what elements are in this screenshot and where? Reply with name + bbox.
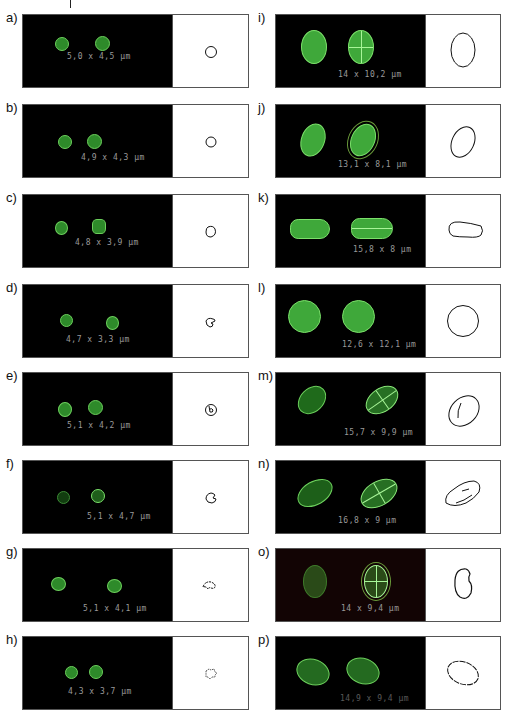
panel-label: a)	[6, 10, 18, 25]
panel-label: l)	[258, 280, 265, 295]
cell-image-measured	[92, 219, 106, 234]
cell-image	[293, 654, 334, 690]
micrograph: 14 x 9,4 µm	[275, 548, 426, 622]
cell-outline-icon	[426, 373, 501, 447]
micrograph: 5,1 x 4,7 µm	[22, 460, 173, 534]
micrograph: 5,0 x 4,5 µm	[22, 14, 173, 88]
cell-image	[60, 314, 73, 327]
panel-i: i) 14 x 10,2 µm	[252, 14, 505, 88]
cell-image-measured	[351, 218, 393, 239]
cell-image-measured	[360, 380, 403, 420]
measurement-label: 13,1 x 8,1 µm	[338, 160, 407, 169]
measurement-label: 4,8 x 3,9 µm	[75, 238, 139, 247]
measurement-label: 16,8 x 9 µm	[338, 516, 396, 525]
outline-trace	[173, 104, 249, 178]
cell-outline-icon	[426, 549, 501, 623]
cell-image	[293, 473, 338, 513]
panel-a: a) 5,0 x 4,5 µm	[0, 14, 250, 88]
micrograph: 16,8 x 9 µm	[275, 460, 426, 534]
cell-outline-icon	[426, 105, 501, 179]
panel-label: n)	[258, 456, 270, 471]
outline-trace	[173, 284, 249, 358]
micrograph: 5,1 x 4,2 µm	[22, 372, 173, 446]
cell-image-measured	[342, 300, 375, 333]
cell-outline-icon	[426, 195, 501, 269]
outline-trace	[173, 194, 249, 268]
measurement-label: 15,8 x 8 µm	[353, 245, 411, 254]
outline-trace	[426, 284, 501, 358]
top-tick-mark	[70, 0, 71, 8]
micrograph: 13,1 x 8,1 µm	[275, 104, 426, 178]
cell-image-measured	[89, 665, 103, 679]
panel-label: g)	[6, 544, 18, 559]
cell-image	[51, 577, 66, 591]
cell-outline-icon	[173, 461, 249, 535]
cell-image-measured	[106, 316, 119, 330]
measurement-label: 15,7 x 9,9 µm	[344, 428, 413, 437]
outline-trace	[173, 548, 249, 622]
cell-image	[301, 30, 327, 64]
cell-image	[57, 491, 70, 504]
measurement-label: 5,1 x 4,7 µm	[87, 512, 151, 521]
cell-outline-icon	[173, 285, 249, 359]
cell-image-measured	[87, 134, 102, 149]
panel-n: n) 16,8 x 9 µm	[252, 460, 505, 534]
micrograph: 4,7 x 3,3 µm	[22, 284, 173, 358]
panel-label: h)	[6, 632, 18, 647]
cell-image	[58, 135, 72, 149]
outline-trace	[426, 14, 501, 88]
outline-trace	[426, 548, 501, 622]
cell-outline-icon	[426, 637, 501, 711]
cell-outline-icon	[173, 195, 249, 269]
cell-outline-icon	[173, 105, 249, 179]
measurement-label: 14 x 9,4 µm	[341, 604, 399, 613]
outline-trace	[173, 636, 249, 710]
cell-image	[55, 37, 69, 51]
panel-e: e) 5,1 x 4,2 µm	[0, 372, 250, 446]
panel-j: j) 13,1 x 8,1 µm	[252, 104, 505, 178]
cell-image-measured	[343, 653, 384, 689]
cell-image-measured	[95, 36, 110, 51]
measurement-label: 14,9 x 9,4 µm	[340, 694, 409, 703]
panel-o: o) 14 x 9,4 µm	[252, 548, 505, 622]
outline-trace	[426, 460, 501, 534]
panel-label: f)	[6, 456, 14, 471]
panel-label: k)	[258, 190, 269, 205]
panel-p: p) 14,9 x 9,4 µm	[252, 636, 505, 710]
micrograph: 14,9 x 9,4 µm	[275, 636, 426, 710]
cell-image-measured	[107, 579, 122, 593]
measurement-label: 14 x 10,2 µm	[338, 70, 402, 79]
cell-image	[290, 219, 330, 239]
panel-label: c)	[6, 190, 17, 205]
panel-label: m)	[258, 368, 273, 383]
cell-image-measured	[91, 489, 105, 503]
cell-image-measured	[348, 30, 374, 64]
panel-label: i)	[258, 10, 265, 25]
cell-image	[288, 300, 321, 333]
outline-trace	[173, 372, 249, 446]
outline-trace	[173, 14, 249, 88]
micrograph: 15,8 x 8 µm	[275, 194, 426, 268]
panel-label: e)	[6, 368, 18, 383]
measurement-label: 4,3 x 3,7 µm	[68, 687, 132, 696]
micrograph: 4,8 x 3,9 µm	[22, 194, 173, 268]
cell-outline-icon	[426, 285, 501, 359]
micrograph: 15,7 x 9,9 µm	[275, 372, 426, 446]
measurement-label: 5,1 x 4,2 µm	[67, 421, 131, 430]
micrograph: 14 x 10,2 µm	[275, 14, 426, 88]
panel-label: o)	[258, 544, 270, 559]
panel-label: b)	[6, 100, 18, 115]
cell-image	[292, 380, 332, 420]
measurement-label: 4,9 x 4,3 µm	[81, 153, 145, 162]
panel-label: p)	[258, 632, 270, 647]
cell-image	[65, 666, 78, 679]
panel-l: l) 12,6 x 12,1 µm	[252, 284, 505, 358]
cell-image-measured	[364, 565, 388, 598]
micrograph: 12,6 x 12,1 µm	[275, 284, 426, 358]
panel-k: k) 15,8 x 8 µm	[252, 194, 505, 268]
outline-trace	[426, 372, 501, 446]
micrograph: 5,1 x 4,1 µm	[22, 548, 173, 622]
measurement-label: 4,7 x 3,3 µm	[66, 335, 130, 344]
cell-outline-icon	[426, 15, 501, 89]
micrograph: 4,3 x 3,7 µm	[22, 636, 173, 710]
